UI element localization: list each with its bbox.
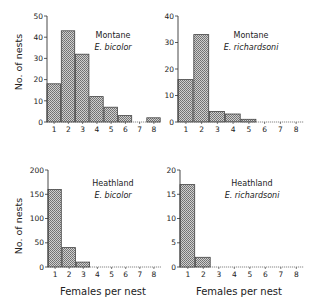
panel-species-label: E. bicolor xyxy=(94,43,132,52)
bar xyxy=(225,114,240,122)
panel-species-label: E. bicolor xyxy=(94,191,132,200)
x-tick-label: 4 xyxy=(95,270,100,279)
x-tick-label: 7 xyxy=(137,125,142,134)
x-tick-label: 5 xyxy=(109,125,114,134)
y-tick-label: 150 xyxy=(30,190,45,199)
bar xyxy=(196,257,211,267)
x-tick-label: 3 xyxy=(81,270,86,279)
panel-site-label: Heathland xyxy=(92,179,133,188)
x-tick-label: 4 xyxy=(231,125,236,134)
x-tick-label: 1 xyxy=(52,125,57,134)
x-tick-label: 2 xyxy=(67,270,72,279)
y-tick-label: 0 xyxy=(169,118,174,127)
y-tick-label: 100 xyxy=(30,214,45,223)
x-tick-label: 6 xyxy=(262,125,267,134)
y-tick-label: 40 xyxy=(33,33,43,42)
x-tick-label: 5 xyxy=(109,270,114,279)
panel-montane-richardsoni: 12345678010203040MontaneE. richardsoni xyxy=(164,12,304,134)
panel-heathland-richardsoni: 1234567805101520HeathlandE. richardsoni xyxy=(166,166,304,279)
bar xyxy=(118,116,131,122)
x-axis-label-left: Females per nest xyxy=(60,286,146,297)
x-tick-label: 6 xyxy=(123,125,128,134)
x-tick-label: 7 xyxy=(278,125,283,134)
x-tick-label: 8 xyxy=(294,270,299,279)
y-tick-label: 0 xyxy=(171,263,176,272)
bar xyxy=(180,185,195,268)
y-tick-label: 0 xyxy=(38,118,43,127)
y-tick-label: 50 xyxy=(33,12,43,21)
panel-species-label: E. richardsoni xyxy=(225,191,281,200)
y-tick-label: 50 xyxy=(34,238,44,247)
figure-canvas: 1234567801020304050MontaneE. bicolor 123… xyxy=(0,0,309,302)
bar xyxy=(194,35,209,122)
y-tick-label: 30 xyxy=(164,38,174,47)
x-axis-label-right: Females per nest xyxy=(196,286,282,297)
y-tick-label: 0 xyxy=(39,263,44,272)
y-tick-label: 10 xyxy=(166,214,176,223)
bar xyxy=(62,248,75,267)
x-tick-label: 5 xyxy=(247,270,252,279)
bar xyxy=(48,189,61,267)
y-tick-label: 40 xyxy=(164,12,174,21)
panel-site-label: Heathland xyxy=(231,179,272,188)
bar xyxy=(61,31,74,122)
bar xyxy=(178,80,193,122)
x-tick-label: 2 xyxy=(199,125,204,134)
x-tick-label: 1 xyxy=(53,270,58,279)
y-tick-label: 200 xyxy=(30,166,45,175)
y-tick-label: 20 xyxy=(164,65,174,74)
y-tick-label: 20 xyxy=(166,166,176,175)
x-tick-label: 8 xyxy=(152,125,157,134)
y-tick-label: 15 xyxy=(166,190,176,199)
x-tick-label: 1 xyxy=(184,125,189,134)
bar xyxy=(90,97,103,122)
y-axis-label-top: No. of nests xyxy=(13,34,24,91)
x-tick-label: 3 xyxy=(216,270,221,279)
panel-heathland-bicolor: 12345678050100150200HeathlandE. bicolor xyxy=(30,166,161,279)
y-axis-label-bottom: No. of nests xyxy=(13,198,24,255)
bar xyxy=(76,262,89,267)
panel-site-label: Montane xyxy=(234,31,269,40)
bar xyxy=(76,54,89,122)
x-tick-label: 7 xyxy=(137,270,142,279)
x-tick-label: 5 xyxy=(247,125,252,134)
x-tick-label: 7 xyxy=(278,270,283,279)
x-tick-label: 2 xyxy=(66,125,71,134)
x-tick-label: 6 xyxy=(123,270,128,279)
x-tick-label: 3 xyxy=(80,125,85,134)
bar xyxy=(104,107,117,122)
y-tick-label: 20 xyxy=(33,75,43,84)
panel-site-label: Montane xyxy=(96,31,131,40)
bar xyxy=(241,119,256,122)
y-tick-label: 10 xyxy=(164,91,174,100)
x-tick-label: 6 xyxy=(263,270,268,279)
bar xyxy=(47,84,60,122)
x-tick-label: 2 xyxy=(201,270,206,279)
x-tick-label: 4 xyxy=(95,125,100,134)
y-tick-label: 30 xyxy=(33,54,43,63)
x-tick-label: 4 xyxy=(232,270,237,279)
panel-species-label: E. richardsoni xyxy=(224,43,280,52)
bar xyxy=(147,118,160,122)
x-tick-label: 8 xyxy=(152,270,157,279)
bar xyxy=(210,111,225,122)
panel-montane-bicolor: 1234567801020304050MontaneE. bicolor xyxy=(33,12,161,134)
y-tick-label: 5 xyxy=(171,238,176,247)
x-tick-label: 1 xyxy=(185,270,190,279)
y-tick-label: 10 xyxy=(33,97,43,106)
x-tick-label: 3 xyxy=(215,125,220,134)
x-tick-label: 8 xyxy=(294,125,299,134)
